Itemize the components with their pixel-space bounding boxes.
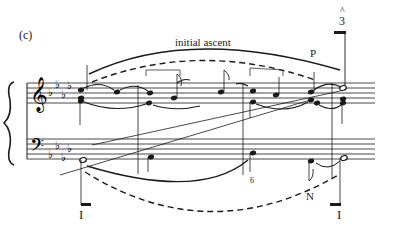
group-bracket-1: [146, 70, 180, 76]
svg-text:♭: ♭: [67, 79, 72, 92]
initial-ascent-label: initial ascent: [175, 36, 231, 48]
bass-key-signature: ♭♭♭♭: [48, 139, 72, 164]
svg-text:♭: ♭: [67, 142, 72, 155]
neighbor-slur: [316, 161, 340, 167]
svg-text:♭: ♭: [61, 151, 66, 164]
panel-label: (c): [19, 28, 32, 42]
scale-degree-bar: [334, 31, 346, 34]
initial-ascent-slur: [89, 49, 340, 74]
scale-degree-3: 3: [339, 14, 345, 28]
svg-text:♭: ♭: [48, 86, 53, 99]
passing-tone-label: P: [310, 47, 316, 59]
svg-text:♭: ♭: [55, 139, 60, 152]
upper-dashed-slur: [92, 60, 315, 82]
bass-clef-icon: 𝄢: [30, 135, 44, 160]
voice-leading-line-1: [92, 91, 340, 145]
roman-numeral-I-left: I: [79, 207, 83, 222]
voice-leading-line-2: [60, 100, 310, 175]
svg-text:♭: ♭: [55, 78, 60, 91]
treble-notes: [77, 65, 347, 178]
neighbor-label: N: [306, 190, 314, 202]
treble-slurs: [84, 79, 341, 109]
music-graph: (c) 𝄞 𝄢 ♭♭♭♭ ♭♭♭♭ initial ascent P ^ 3: [0, 0, 394, 234]
treble-clef-icon: 𝄞: [30, 76, 48, 113]
grand-staff-brace: [4, 82, 14, 165]
bass-staff: [27, 139, 375, 159]
svg-text:♭: ♭: [48, 148, 53, 161]
bass-solid-slur: [87, 160, 248, 182]
roman-numeral-I-right: I: [337, 207, 341, 222]
figured-bass-6: 6: [250, 176, 254, 185]
group-bracket-2: [250, 68, 283, 76]
svg-text:♭: ♭: [61, 88, 66, 101]
